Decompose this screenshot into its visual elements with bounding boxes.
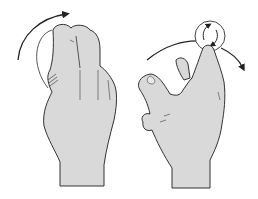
illustration-canvas (0, 0, 258, 199)
right-arc-arrow-icon (147, 41, 200, 60)
hand-gestures-svg (0, 0, 258, 199)
left-hand (18, 14, 117, 186)
left-hand-shape (44, 24, 117, 186)
right-hand (138, 21, 243, 188)
